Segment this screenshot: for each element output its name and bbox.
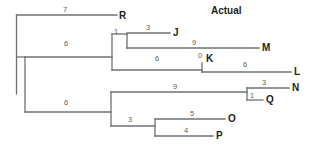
branch-length-NQ-Q: 1 [250,92,254,100]
branch-length-JM-J: 3 [146,24,150,32]
branch-length-lower-OP: 3 [128,116,132,124]
taxon-label-R: R [119,11,126,21]
branch-length-root-upper: 6 [64,40,68,48]
tree-branches-svg [0,0,320,154]
taxon-label-M: M [262,43,270,53]
tree-branch-group [17,15,292,136]
chart-title: Actual [211,6,242,16]
branch-length-upper-K: 6 [155,55,159,63]
branch-length-root-lower: 6 [64,99,68,107]
taxon-label-Q: Q [266,95,274,105]
branch-length-OP-P: 4 [184,127,188,135]
taxon-label-K: K [206,54,213,64]
branch-length-K-stub: 0 [198,52,202,60]
branch-length-root-R: 7 [63,6,67,14]
branch-length-NQ-N: 3 [262,79,266,87]
branch-length-lower-NQ: 9 [173,83,177,91]
branch-length-upper-JM: 1 [114,28,118,36]
branch-length-OP-O: 5 [190,110,194,118]
taxon-label-J: J [173,28,179,38]
phylogenetic-tree-figure: Actual RJMKLNQOP 731690663916534 [0,0,320,154]
taxon-label-O: O [228,114,236,124]
branch-length-JM-M: 9 [192,39,196,47]
taxon-label-L: L [294,67,300,77]
taxon-label-P: P [216,131,223,141]
branch-length-K-L: 6 [243,61,247,69]
taxon-label-N: N [292,83,299,93]
